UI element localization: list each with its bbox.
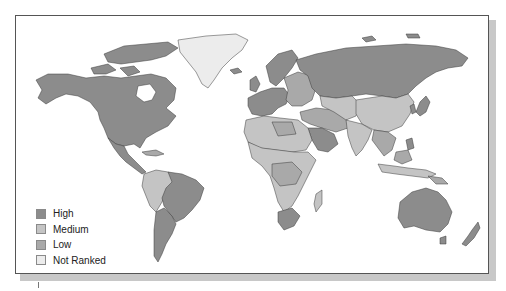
legend-label: High xyxy=(53,208,74,219)
region-korea xyxy=(410,104,416,114)
region-indonesia xyxy=(378,164,436,178)
legend-item-medium: Medium xyxy=(36,222,106,238)
map-frame: High Medium Low Not Ranked xyxy=(15,15,489,274)
legend-swatch-medium xyxy=(36,224,46,234)
region-caribbean xyxy=(142,150,164,156)
legend-label: Medium xyxy=(53,224,89,235)
legend-label: Not Ranked xyxy=(53,255,106,266)
region-western-europe xyxy=(248,88,290,116)
region-russia-islands xyxy=(362,34,420,42)
legend-swatch-high xyxy=(36,209,46,219)
region-australia xyxy=(398,188,452,232)
map-legend: High Medium Low Not Ranked xyxy=(36,206,106,268)
region-new-zealand xyxy=(462,222,480,246)
region-north-america xyxy=(36,74,176,148)
region-japan xyxy=(416,96,430,116)
region-png xyxy=(428,176,448,184)
region-philippines xyxy=(406,138,414,150)
region-canada-islands xyxy=(91,64,140,76)
tick-mark xyxy=(38,282,39,288)
region-southeast-asia xyxy=(372,130,396,156)
region-arabia xyxy=(308,128,338,152)
region-greenland xyxy=(178,34,248,88)
region-canada-arctic xyxy=(104,42,178,64)
region-borneo xyxy=(394,150,412,164)
region-russia xyxy=(296,44,468,98)
region-british-isles xyxy=(250,76,260,92)
region-south-africa xyxy=(278,208,300,230)
legend-swatch-low xyxy=(36,240,46,250)
region-tasmania xyxy=(440,236,446,244)
legend-swatch-not-ranked xyxy=(36,255,46,265)
region-madagascar xyxy=(314,190,322,212)
legend-item-high: High xyxy=(36,206,106,222)
legend-label: Low xyxy=(53,239,71,250)
region-iceland xyxy=(230,68,242,74)
legend-item-not-ranked: Not Ranked xyxy=(36,253,106,269)
legend-item-low: Low xyxy=(36,237,106,253)
